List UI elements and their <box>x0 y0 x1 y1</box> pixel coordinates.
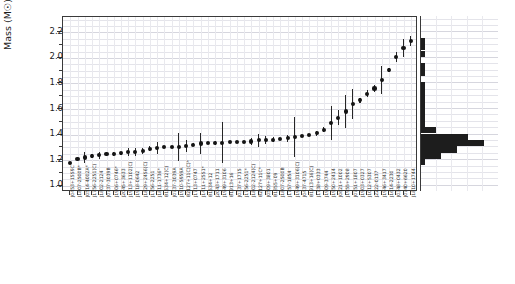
gridline-vertical <box>451 16 452 191</box>
gridline-vertical <box>389 17 390 190</box>
gridline-horizontal <box>420 102 498 103</box>
gridline-horizontal <box>63 154 416 155</box>
gridline-vertical <box>164 17 165 190</box>
gridline-vertical <box>201 17 202 190</box>
pulsar-name-label: J1713+0747 <box>194 168 199 197</box>
data-point <box>344 109 348 113</box>
gridline-horizontal <box>63 71 416 72</box>
gridline-horizontal <box>63 115 416 116</box>
pulsar-name-label: J0751+1807 <box>354 168 359 197</box>
pulsar-name-label: J1411+2551* <box>202 166 207 197</box>
y-axis-minor-tick <box>59 121 62 122</box>
pulsar-name-label: B2127+11C(C)* <box>187 160 192 197</box>
pulsar-name-label: J1955+2908 <box>346 168 351 197</box>
data-point <box>199 141 203 145</box>
data-point <box>112 152 116 156</box>
pulsar-name-label: B1913+16(C) <box>310 166 315 197</box>
gridline-vertical <box>280 17 281 190</box>
gridline-horizontal <box>63 26 416 27</box>
data-point <box>372 86 376 90</box>
gridline-vertical <box>309 17 310 190</box>
pulsar-name-label: J1949+3106(C) <box>296 162 301 197</box>
pulsar-name-label: J1756-2251(C) <box>93 164 98 197</box>
gridline-horizontal <box>63 45 416 46</box>
pulsar-name-label: B1534+12 <box>209 172 214 197</box>
gridline-vertical <box>215 17 216 190</box>
gridline-horizontal <box>420 159 498 160</box>
pulsar-name-label: J0348+0432 <box>397 168 402 197</box>
gridline-horizontal <box>420 57 498 58</box>
gridline-vertical <box>259 17 260 190</box>
gridline-vertical <box>338 17 339 190</box>
data-point <box>220 141 224 145</box>
y-axis-minor-tick <box>59 95 62 96</box>
pulsar-name-label: J1012+5307 <box>368 168 373 197</box>
data-point <box>315 131 319 135</box>
gridline-horizontal <box>420 25 498 26</box>
data-point <box>83 155 87 159</box>
y-axis-tick-label: 2.0 <box>23 52 63 61</box>
data-point <box>177 145 181 149</box>
pulsar-name-label: J1903+0327 <box>361 168 366 197</box>
pulsar-name-label: J2222-0137 <box>375 171 380 197</box>
gridline-horizontal <box>63 52 416 53</box>
gridline-vertical <box>324 17 325 190</box>
gridline-horizontal <box>63 135 416 136</box>
pulsar-name-label: J0437-4715 <box>303 171 308 197</box>
data-point <box>336 116 340 120</box>
gridline-horizontal <box>63 141 416 142</box>
data-point <box>365 92 369 96</box>
y-axis-tick-label: 1.4 <box>23 129 63 138</box>
pulsar-name-label: J0509+3801 <box>267 168 272 197</box>
pulsar-name-label: J1918-0642 <box>136 171 141 197</box>
mass-histogram-panel <box>420 16 498 191</box>
data-point <box>271 138 275 142</box>
pulsar-name-label: J2043+1711 <box>216 168 221 197</box>
gridline-horizontal <box>63 90 416 91</box>
data-point <box>351 102 355 106</box>
data-point <box>242 140 246 144</box>
gridline-horizontal <box>420 51 498 52</box>
pulsar-name-label: J0337+1715 <box>238 168 243 197</box>
pulsar-name-label: J0514-4002A* <box>86 165 91 197</box>
scatter-plot-area <box>62 16 417 191</box>
gridline-vertical <box>150 17 151 190</box>
figure-root: Mass (M☉) 1.01.21.41.61.82.02.2 J0453+15… <box>0 0 515 284</box>
gridline-vertical <box>157 17 158 190</box>
y-axis-minor-tick <box>59 70 62 71</box>
data-point <box>329 121 333 125</box>
gridline-horizontal <box>420 166 498 167</box>
histogram-bar <box>420 134 468 140</box>
data-point <box>148 147 152 151</box>
data-point <box>307 133 311 137</box>
gridline-vertical <box>317 17 318 190</box>
gridline-horizontal <box>63 32 416 33</box>
gridline-horizontal <box>63 147 416 148</box>
gridline-vertical <box>266 17 267 190</box>
pulsar-name-label: J1829+2456(C) <box>144 162 149 197</box>
pulsar-name-label: J0453+1559C <box>71 165 76 197</box>
gridline-vertical <box>375 17 376 190</box>
data-point <box>228 140 232 144</box>
gridline-vertical <box>331 17 332 190</box>
gridline-vertical <box>172 17 173 190</box>
gridline-horizontal <box>63 128 416 129</box>
pulsar-name-label: J1802-2124 <box>100 171 105 197</box>
gridline-horizontal <box>420 121 498 122</box>
data-point <box>235 140 239 144</box>
gridline-horizontal <box>63 64 416 65</box>
pulsar-name-label: J1807-2500B* <box>78 165 83 197</box>
gridline-vertical <box>288 17 289 190</box>
data-point <box>322 128 326 132</box>
gridline-horizontal <box>420 114 498 115</box>
data-point <box>387 68 391 72</box>
data-point <box>380 78 384 82</box>
pulsar-name-label: J1949+3106 <box>223 168 228 197</box>
gridline-horizontal <box>420 95 498 96</box>
pulsar-name-label: J0740+6620 <box>404 168 409 197</box>
pulsar-name-label: J1738+0333 <box>317 168 322 197</box>
pulsar-name-label: J2045+3633 <box>122 168 127 197</box>
y-axis-tick-label: 1.6 <box>23 104 63 113</box>
gridline-vertical <box>208 17 209 190</box>
gridline-horizontal <box>420 63 498 64</box>
